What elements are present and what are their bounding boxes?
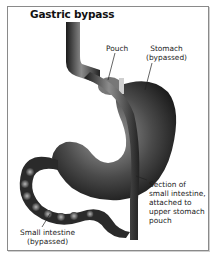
label-pouch: Pouch bbox=[106, 44, 128, 53]
label-section-line3: attached to bbox=[149, 198, 206, 207]
label-small-line1: Small intestine bbox=[20, 228, 75, 237]
label-pouch-text: Pouch bbox=[106, 44, 128, 53]
label-section-line5: pouch bbox=[149, 216, 206, 225]
label-stomach-line1: Stomach bbox=[146, 44, 187, 53]
label-stomach-line2: (bypassed) bbox=[146, 53, 187, 62]
label-stomach: Stomach (bypassed) bbox=[146, 44, 187, 62]
label-small-intestine: Small intestine (bypassed) bbox=[20, 228, 75, 246]
label-section-line4: upper stomach bbox=[149, 207, 206, 216]
label-section-line1: Section of bbox=[149, 180, 206, 189]
label-small-line2: (bypassed) bbox=[20, 237, 75, 246]
label-section-small-intestine: Section of small intestine, attached to … bbox=[149, 180, 206, 225]
label-section-line2: small intestine, bbox=[149, 189, 206, 198]
leader-pouch bbox=[108, 53, 115, 80]
